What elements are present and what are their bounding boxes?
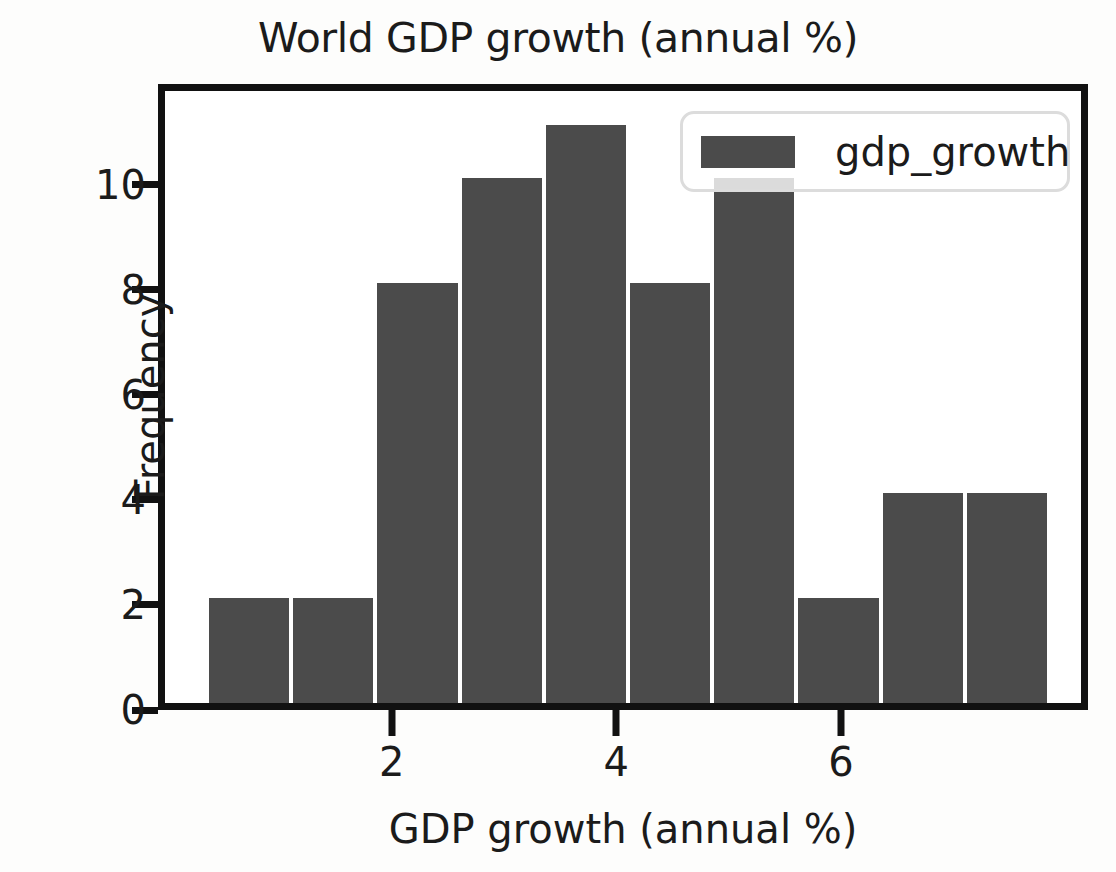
x-tick-mark	[613, 710, 620, 736]
histogram-bar	[209, 598, 289, 703]
y-tick-label: 4	[121, 480, 146, 520]
legend-label-gdp-growth: gdp_growth	[835, 132, 1070, 172]
x-tick-label: 4	[604, 742, 629, 782]
y-tick-label: 10	[95, 165, 146, 205]
x-tick-mark	[837, 710, 844, 736]
histogram-bar	[377, 283, 457, 703]
x-axis-label: GDP growth (annual %)	[158, 806, 1088, 852]
chart-page: World GDP growth (annual %) gdp_growth F…	[0, 0, 1116, 872]
plot-frame: gdp_growth	[158, 84, 1088, 710]
chart-legend: gdp_growth	[680, 111, 1070, 192]
y-tick-label: 0	[121, 690, 146, 730]
y-tick-label: 2	[121, 585, 146, 625]
page-title: World GDP growth (annual %)	[0, 14, 1116, 62]
histogram-bar	[546, 125, 626, 703]
histogram-bar	[967, 493, 1047, 703]
y-tick-label: 8	[121, 270, 146, 310]
x-tick-label: 2	[379, 742, 404, 782]
histogram-bar	[462, 178, 542, 703]
legend-swatch-gdp-growth	[701, 136, 795, 168]
x-tick-label: 6	[828, 742, 853, 782]
x-tick-mark	[388, 710, 395, 736]
y-tick-label: 6	[121, 375, 146, 415]
histogram-bar	[883, 493, 963, 703]
histogram-bar	[714, 178, 794, 703]
histogram-bar	[630, 283, 710, 703]
histogram-bar	[798, 598, 878, 703]
histogram-bar	[293, 598, 373, 703]
